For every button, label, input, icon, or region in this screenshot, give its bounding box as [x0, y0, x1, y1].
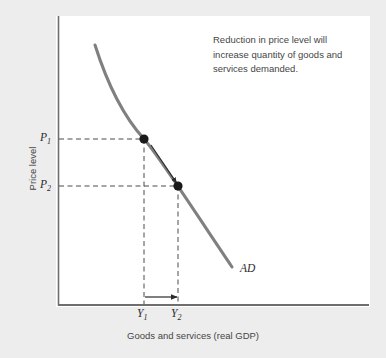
y-tick-label-p2: P2: [40, 178, 51, 193]
x-axis-caption: Goods and services (real GDP): [0, 330, 386, 341]
x-tick-label-y1: Y1: [137, 307, 147, 322]
y-tick-label-p1: P1: [40, 131, 51, 146]
aggregate-demand-figure: Reduction in price level will increase q…: [0, 0, 386, 358]
x-tick-label-y2: Y2: [171, 307, 181, 322]
movement-arrow: [151, 145, 177, 183]
explanation-annotation: Reduction in price level will increase q…: [213, 33, 358, 77]
ad-curve: [95, 45, 232, 267]
ad-curve-label: AD: [240, 262, 255, 274]
y-axis-caption: Price level: [27, 129, 38, 209]
point-marker-2: [173, 181, 182, 190]
point-marker-1: [139, 134, 148, 143]
